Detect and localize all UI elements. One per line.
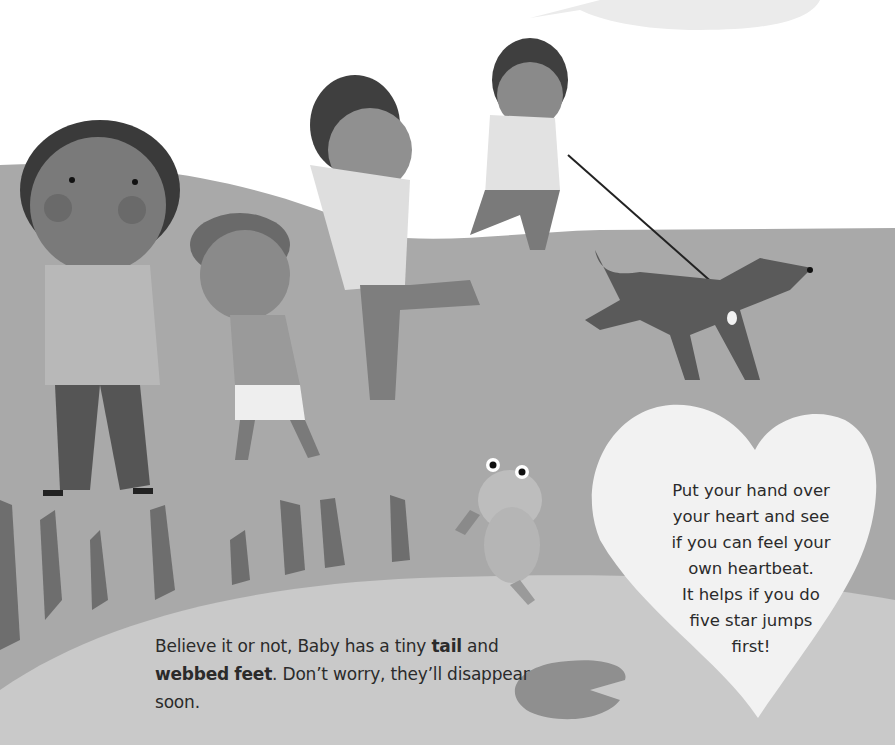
caption-bold-tail: tail (431, 636, 461, 656)
heart-tip-text: Put your hand over your heart and see if… (626, 478, 876, 660)
heart-line: your heart and see (626, 504, 876, 530)
heart-line: first! (626, 634, 876, 660)
heart-line: own heartbeat. (626, 556, 876, 582)
heart-line: five star jumps (626, 608, 876, 634)
heart-line: if you can feel your (626, 530, 876, 556)
book-page: Believe it or not, Baby has a tiny tail … (0, 0, 895, 745)
caption-bold-webbed: webbed (155, 664, 229, 684)
heart-line: Put your hand over (626, 478, 876, 504)
caption-part: and (462, 636, 499, 656)
caption-bold-feet: feet (234, 664, 272, 684)
heart-line: It helps if you do (626, 582, 876, 608)
caption-text: Believe it or not, Baby has a tiny tail … (155, 632, 575, 716)
speech-bubble (530, 0, 820, 30)
caption-part: Believe it or not, Baby has a tiny (155, 636, 431, 656)
